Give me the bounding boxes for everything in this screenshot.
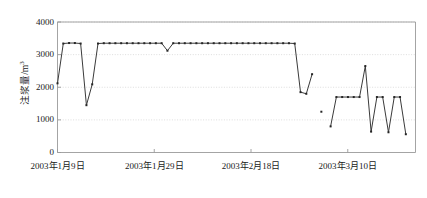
data-marker (393, 96, 395, 98)
data-marker (132, 42, 134, 44)
data-marker (68, 42, 70, 44)
data-marker (207, 42, 209, 44)
data-marker (166, 50, 168, 52)
data-marker (178, 42, 180, 44)
data-marker (347, 96, 349, 98)
data-marker (376, 96, 378, 98)
data-series-markers (57, 42, 407, 135)
data-marker (359, 96, 361, 98)
data-marker (74, 42, 76, 44)
data-marker (382, 96, 384, 98)
data-marker (219, 42, 221, 44)
data-marker (143, 42, 145, 44)
data-marker (311, 73, 313, 75)
data-marker (120, 42, 122, 44)
data-marker (370, 131, 372, 133)
chart-figure: 注浆量/m3 01000200030004000 2003年1月9日2003年1… (0, 0, 427, 198)
data-marker (126, 42, 128, 44)
y-axis-tick-marks (58, 22, 62, 153)
data-marker (387, 131, 389, 133)
gridlines (58, 22, 416, 120)
data-marker (80, 43, 82, 45)
series-line-segment (331, 66, 406, 134)
data-marker (149, 42, 151, 44)
data-marker (109, 42, 111, 44)
data-marker (259, 42, 261, 44)
data-marker (300, 91, 302, 93)
data-marker (353, 96, 355, 98)
x-axis-tick-marks (58, 149, 348, 153)
data-marker (265, 42, 267, 44)
data-marker (253, 42, 255, 44)
data-marker (276, 42, 278, 44)
data-marker (330, 125, 332, 127)
data-marker (236, 42, 238, 44)
data-marker (62, 43, 64, 45)
data-marker (224, 42, 226, 44)
data-marker (57, 82, 59, 84)
data-marker (230, 42, 232, 44)
data-marker (247, 42, 249, 44)
data-marker (114, 42, 116, 44)
data-marker (161, 42, 163, 44)
data-marker (195, 42, 197, 44)
series-line-segment (58, 43, 313, 105)
data-marker (305, 93, 307, 95)
data-marker (294, 43, 296, 45)
data-marker (213, 42, 215, 44)
data-marker (399, 96, 401, 98)
data-marker (335, 96, 337, 98)
data-marker (97, 43, 99, 45)
data-marker (320, 111, 322, 113)
data-marker (405, 133, 407, 135)
data-marker (91, 83, 93, 85)
plot-area (0, 0, 427, 198)
data-marker (172, 42, 174, 44)
data-marker (201, 42, 203, 44)
data-marker (85, 104, 87, 106)
data-marker (282, 42, 284, 44)
data-marker (364, 65, 366, 67)
data-marker (288, 42, 290, 44)
data-marker (271, 42, 273, 44)
data-marker (242, 42, 244, 44)
data-marker (155, 42, 157, 44)
data-marker (184, 42, 186, 44)
data-marker (103, 42, 105, 44)
data-marker (190, 42, 192, 44)
data-marker (138, 42, 140, 44)
data-series-line (58, 43, 406, 134)
data-marker (341, 96, 343, 98)
